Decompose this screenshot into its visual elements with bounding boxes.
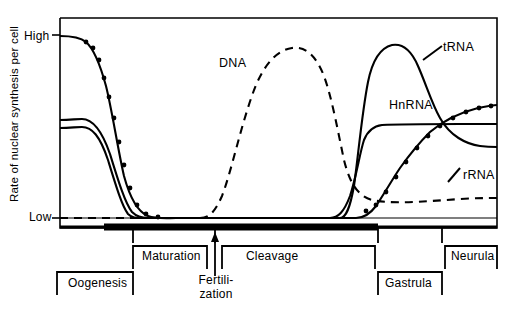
curve-hnrna bbox=[60, 124, 497, 218]
figure-root: Rate of nuclear synthesis per cell High … bbox=[0, 0, 513, 314]
curve-label-hnrna: HnRNA bbox=[389, 98, 433, 112]
stage-label-cleavage: Cleavage bbox=[246, 249, 298, 263]
curve-label-dna: DNA bbox=[219, 56, 246, 70]
label-leader-lines bbox=[423, 46, 460, 182]
fertilization-line-1: Fertili- bbox=[185, 274, 247, 288]
fertilization-arrow bbox=[211, 232, 219, 276]
stage-label-fertilization: Fertili- zation bbox=[185, 274, 247, 301]
stage-label-neurula: Neurula bbox=[451, 249, 494, 263]
curve-label-trna: tRNA bbox=[443, 40, 474, 54]
plot-canvas bbox=[0, 0, 513, 314]
curve-dna bbox=[60, 48, 497, 218]
fertilization-line-2: zation bbox=[185, 288, 247, 302]
curve-rrna bbox=[60, 36, 497, 219]
stage-label-oogenesis: Oogenesis bbox=[68, 276, 127, 290]
curve-label-rrna: rRNA bbox=[463, 168, 495, 182]
y-tick-marks bbox=[52, 35, 60, 218]
baseline-low bbox=[60, 218, 497, 227]
stage-label-gastrula: Gastrula bbox=[385, 276, 432, 290]
plot-frame bbox=[60, 18, 497, 228]
stage-label-maturation: Maturation bbox=[142, 249, 201, 263]
